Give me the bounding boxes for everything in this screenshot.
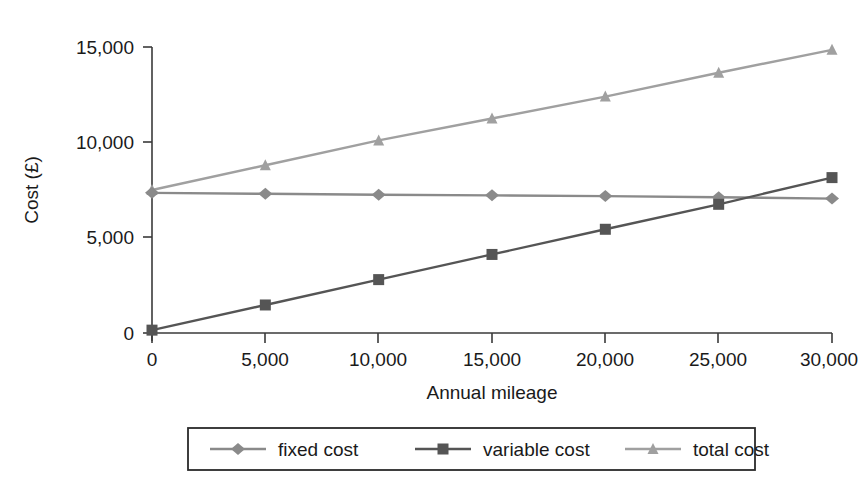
- y-tick-label-10000: 10,000: [76, 132, 134, 153]
- x-axis-title: Annual mileage: [427, 382, 558, 403]
- data-point-marker: [713, 199, 724, 210]
- x-tick-label-25000: 25,000: [689, 349, 747, 370]
- y-axis-title: Cost (£): [21, 156, 42, 224]
- y-axis-tick-labels: 15,000 10,000 5,000 0: [76, 37, 134, 344]
- x-tick-label-10000: 10,000: [349, 349, 407, 370]
- x-tick-label-15000: 15,000: [463, 349, 521, 370]
- legend-swatch-marker: [438, 444, 449, 455]
- data-point-marker: [598, 190, 612, 202]
- series-fixed-cost: [145, 187, 839, 205]
- x-tick-label-30000: 30,000: [800, 349, 858, 370]
- x-tick-label-5000: 5,000: [241, 349, 289, 370]
- series-total-cost: [147, 44, 838, 195]
- data-point-marker: [372, 189, 386, 201]
- data-point-marker: [258, 188, 272, 200]
- data-point-marker: [487, 249, 498, 260]
- y-tick-label-15000: 15,000: [76, 37, 134, 58]
- data-point-marker: [825, 193, 839, 205]
- chart-canvas: 15,000 10,000 5,000 0 0 5,000 10,000 15,…: [0, 0, 866, 487]
- data-series-layer: [145, 44, 839, 336]
- x-tick-label-0: 0: [147, 349, 158, 370]
- data-point-marker: [373, 274, 384, 285]
- x-tick-label-20000: 20,000: [576, 349, 634, 370]
- legend-label: variable cost: [483, 439, 590, 460]
- data-point-marker: [485, 189, 499, 201]
- x-axis-tick-labels: 0 5,000 10,000 15,000 20,000 25,000 30,0…: [147, 349, 858, 370]
- data-point-marker: [260, 299, 271, 310]
- x-axis-ticks: [152, 333, 832, 343]
- data-point-marker: [600, 224, 611, 235]
- legend-label: total cost: [693, 439, 770, 460]
- data-point-marker: [147, 325, 158, 336]
- y-tick-label-5000: 5,000: [86, 227, 134, 248]
- legend-label: fixed cost: [278, 439, 359, 460]
- cost-vs-mileage-chart: 15,000 10,000 5,000 0 0 5,000 10,000 15,…: [0, 0, 866, 487]
- data-point-marker: [827, 44, 838, 55]
- y-tick-label-0: 0: [123, 323, 134, 344]
- data-point-marker: [827, 172, 838, 183]
